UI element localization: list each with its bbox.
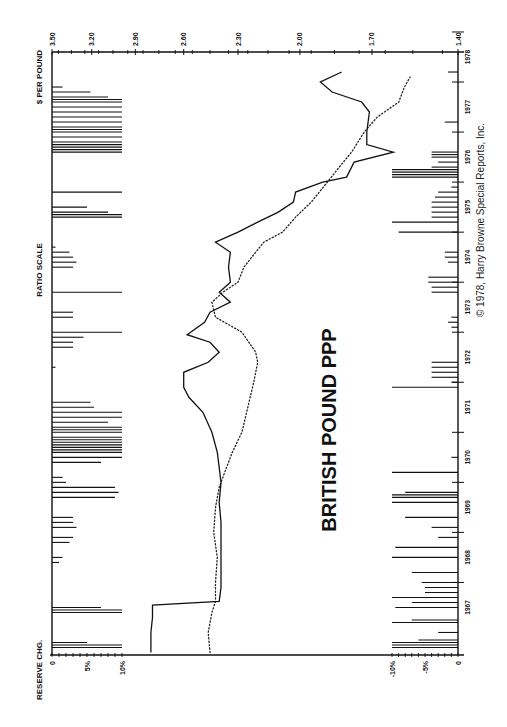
year-tick-label: 1978 [464,49,471,64]
reserve-tick-label: -5% [422,660,429,673]
british-pound-ppp-chart: 3.503.202.902.602.302.001.701.40 1967196… [0,0,507,727]
ppp-series-line [208,77,410,653]
year-tick-label: 1971 [464,400,471,415]
price-tick-label: 1.40 [455,32,462,46]
price-axis-title: $ PER POUND [35,50,44,104]
year-tick-label: 1977 [464,99,471,114]
year-tick-label: 1969 [464,500,471,515]
price-tick-label: 1.70 [368,32,375,46]
reserve-tick-label: 5% [84,660,91,671]
reserve-tick-label: -10% [389,660,396,677]
ratio-scale-note: RATIO SCALE [35,243,44,297]
year-tick-label: 1972 [464,350,471,365]
price-tick-label: 2.00 [296,32,303,46]
price-tick-label: 2.90 [132,32,139,46]
year-tick-label: 1968 [464,550,471,565]
price-tick-label: 2.60 [180,32,187,46]
reserve-tick-label: 0 [455,661,462,665]
exchange-rate-series-line [151,72,393,653]
reserve-tick-label: 10% [119,660,126,675]
reserve-change-title: RESERVE CHG. [35,640,44,700]
year-tick-label: 1973 [464,300,471,315]
year-tick-label: 1970 [464,450,471,465]
reserve-change-bars [52,72,458,647]
chart-title: BRITISH POUND PPP [318,328,340,531]
price-tick-label: 2.30 [235,32,242,46]
year-tick-label: 1975 [464,200,471,215]
reserve-tick-label: 0 [49,661,56,665]
year-tick-label: 1974 [464,250,471,265]
copyright-note: © 1978, Harry Browne Special Reports, In… [475,123,486,317]
price-tick-label: 3.20 [88,32,95,46]
reserve-axis: 05%10%-10%-5%0 [49,653,462,677]
year-tick-label: 1967 [464,600,471,615]
price-tick-label: 3.50 [49,32,56,46]
year-tick-label: 1976 [464,149,471,164]
